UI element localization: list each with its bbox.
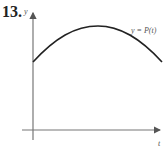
x-axis-label: t bbox=[158, 139, 161, 148]
graph: y t y = P(t) bbox=[0, 0, 167, 148]
curve-label: y = P(t) bbox=[130, 26, 157, 35]
y-axis-label: y bbox=[23, 7, 28, 16]
